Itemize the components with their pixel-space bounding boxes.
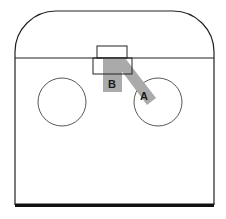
left-circle	[38, 78, 86, 126]
label-b: B	[108, 78, 116, 90]
baseline-bar	[15, 204, 214, 208]
diagram-canvas: B A	[0, 0, 226, 219]
upper-rectangle	[97, 46, 127, 58]
outer-boundary	[15, 11, 214, 205]
label-a: A	[140, 90, 148, 102]
